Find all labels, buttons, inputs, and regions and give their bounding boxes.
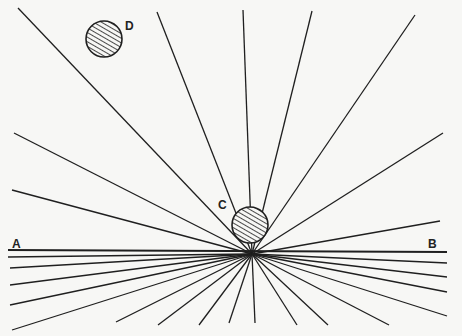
line-ab [8, 250, 447, 252]
circle-d [86, 21, 122, 57]
label-a: A [12, 237, 21, 251]
ray [252, 15, 415, 254]
ray [252, 254, 447, 263]
ray [252, 254, 255, 323]
ray [10, 254, 252, 285]
circle-c [232, 207, 268, 243]
diagram-canvas [0, 0, 462, 336]
ray [252, 221, 440, 254]
label-c: C [218, 198, 227, 212]
label-d: D [125, 19, 134, 33]
label-b: B [428, 237, 437, 251]
ray [252, 133, 443, 254]
rays [8, 8, 447, 330]
ray [14, 133, 252, 254]
ray [116, 254, 252, 322]
ray [252, 254, 447, 316]
ray [252, 254, 389, 325]
ray [18, 8, 252, 254]
ray-diagram: A B C D [0, 0, 462, 336]
ray [199, 254, 252, 325]
ray [12, 190, 252, 254]
